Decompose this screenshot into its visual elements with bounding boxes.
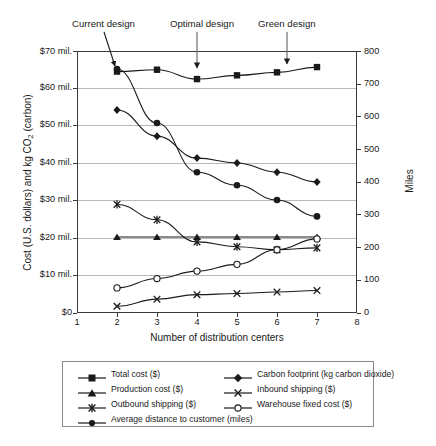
data-point-diamond — [193, 154, 200, 162]
data-point-square — [154, 67, 160, 73]
data-point-circle-filled — [154, 120, 161, 127]
legend: Total cost ($) Carbon footprint (kg carb… — [62, 361, 374, 427]
data-point-diamond — [113, 106, 120, 114]
legend-marker-diamond — [223, 373, 253, 383]
series-production-cost — [113, 233, 321, 240]
series-total-cost — [114, 64, 320, 82]
series-average-distance-to-customer-miles — [114, 66, 321, 220]
data-point-diamond — [273, 168, 280, 176]
legend-marker-circle-open — [223, 403, 253, 413]
series-line — [117, 67, 317, 79]
legend-label-total-cost: Total cost ($) — [111, 369, 160, 379]
series-carbon-footprint-kg-carbon-dioxide — [113, 106, 320, 186]
data-point-square — [234, 72, 240, 78]
legend-label-average-distance: Average distance to customer (miles) — [111, 414, 253, 424]
data-point-circle-filled — [234, 182, 241, 189]
data-point-circle-open — [234, 261, 240, 267]
data-point-circle-filled — [194, 169, 201, 176]
series-line — [117, 291, 317, 307]
data-point-square — [194, 76, 200, 82]
data-point-diamond — [313, 178, 320, 186]
series-line — [117, 204, 317, 249]
data-point-circle-filled — [314, 213, 321, 220]
series-inbound-shipping — [114, 287, 321, 309]
series-outbound-shipping — [114, 200, 321, 253]
data-point-circle-filled — [274, 197, 281, 204]
data-point-square — [274, 69, 280, 75]
data-point-circle-filled — [114, 66, 121, 73]
legend-label-carbon-footprint: Carbon footprint (kg carbon dioxide) — [257, 369, 394, 379]
legend-label-warehouse-fixed-cost: Warehouse fixed cost ($) — [257, 399, 352, 409]
legend-marker-triangle — [77, 388, 107, 398]
data-point-circle-open — [154, 275, 160, 281]
data-point-diamond — [233, 159, 240, 167]
data-point-diamond — [153, 132, 160, 140]
data-point-circle-open — [114, 285, 120, 291]
data-point-circle-open — [274, 247, 280, 253]
legend-marker-cross — [223, 388, 253, 398]
legend-marker-asterisk — [77, 403, 107, 413]
legend-label-production-cost: Production cost ($) — [111, 384, 183, 394]
data-point-square — [314, 64, 320, 70]
series-line — [117, 69, 317, 216]
legend-label-outbound-shipping: Outbound shipping ($) — [111, 399, 196, 409]
data-point-circle-open — [194, 268, 200, 274]
legend-label-inbound-shipping: Inbound shipping ($) — [257, 384, 335, 394]
legend-marker-square — [77, 373, 107, 383]
legend-marker-circle-filled — [77, 418, 107, 428]
chart-figure: $70 mil. $60 mil. $50 mil. $40 mil. $30 … — [0, 0, 436, 446]
series-line — [117, 239, 317, 288]
data-point-circle-open — [314, 236, 320, 242]
series-line — [117, 110, 317, 182]
